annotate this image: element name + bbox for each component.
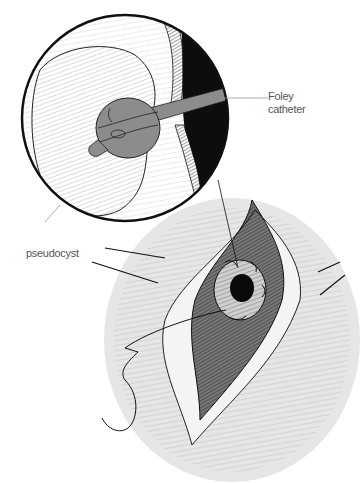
pseudocyst-leader-line bbox=[45, 205, 60, 222]
foley-label-line1: Foley bbox=[268, 90, 305, 103]
surgical-illustration bbox=[0, 0, 364, 483]
magnified-view bbox=[20, 10, 240, 230]
pseudocyst-label: pseudocyst bbox=[26, 247, 79, 260]
foley-label-line2: catheter bbox=[268, 103, 305, 116]
foley-catheter-label: Foley catheter bbox=[268, 90, 305, 116]
